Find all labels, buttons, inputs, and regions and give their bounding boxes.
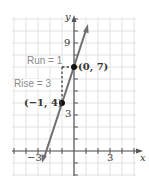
- line-arrow-bottom-icon: [41, 154, 46, 163]
- point-label-neg1-4: (−1, 4): [24, 98, 63, 108]
- point-label-0-7: (0, 7): [78, 62, 108, 72]
- run-label: Run = 1: [27, 56, 62, 66]
- tick-label-x-3: 3: [107, 153, 113, 163]
- rise-label: Rise = 3: [14, 79, 51, 89]
- coordinate-plane: [0, 0, 149, 178]
- tick-label-y-9: 9: [64, 38, 70, 48]
- point-0-7: [71, 64, 77, 70]
- tick-label-x-neg3: −3: [27, 153, 42, 163]
- tick-label-y-3: 3: [65, 109, 71, 119]
- y-axis-label: y: [65, 12, 71, 22]
- x-axis-label: x: [140, 153, 146, 163]
